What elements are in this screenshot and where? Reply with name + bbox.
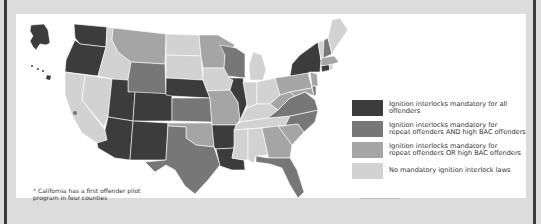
map-legend: Ignition interlocks mandatory for all of… bbox=[352, 100, 527, 184]
legend-item-repeat-and-high-bac: Ignition interlocks mandatory for repeat… bbox=[352, 121, 527, 137]
state-ME bbox=[328, 18, 348, 54]
footnote: *California has a first offender pilot p… bbox=[33, 187, 143, 201]
state-NM bbox=[130, 121, 168, 160]
legend-swatch-repeat-and-high-bac bbox=[352, 121, 383, 137]
state-NY bbox=[290, 42, 321, 76]
footnote-symbol: * bbox=[33, 187, 36, 194]
legend-item-none: No mandatory ignition interlock laws bbox=[352, 163, 527, 179]
state-CO bbox=[133, 92, 172, 121]
legend-item-all-offenders: Ignition interlocks mandatory for all of… bbox=[352, 100, 527, 116]
state-RI bbox=[329, 64, 333, 70]
legend-swatch-all-offenders bbox=[352, 100, 383, 116]
footnote-text: California has a first offender pilot pr… bbox=[33, 187, 140, 201]
state-MS bbox=[232, 129, 248, 160]
state-HI bbox=[31, 65, 51, 80]
state-FL bbox=[256, 156, 304, 198]
california-pilot-marker bbox=[73, 111, 77, 115]
state-MI bbox=[249, 52, 266, 80]
state-AK bbox=[30, 24, 50, 50]
legend-label: Ignition interlocks mandatory for all of… bbox=[389, 101, 527, 116]
legend-label: Ignition interlocks mandatory for repeat… bbox=[389, 122, 526, 137]
state-ND bbox=[166, 34, 201, 56]
legend-item-repeat-or-high-bac: Ignition interlocks mandatory for repeat… bbox=[352, 142, 527, 158]
state-AR bbox=[212, 125, 236, 149]
divider bbox=[360, 198, 400, 199]
legend-swatch-repeat-or-high-bac bbox=[352, 142, 383, 158]
legend-label: No mandatory ignition interlock laws bbox=[389, 167, 511, 174]
state-SD bbox=[166, 55, 203, 80]
legend-label: Ignition interlocks mandatory for repeat… bbox=[389, 143, 521, 158]
legend-swatch-none bbox=[352, 163, 383, 179]
state-WY bbox=[128, 62, 166, 95]
state-KS bbox=[172, 98, 212, 122]
